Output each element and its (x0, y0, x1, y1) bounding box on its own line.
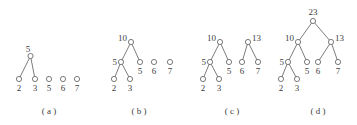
c-edge-13-6 (242, 42, 248, 62)
b-edge-10-l5 (131, 42, 140, 62)
panel-d: 231013556723( d ) (278, 7, 344, 116)
b-leaf-6[interactable] (151, 59, 156, 64)
panel-c-caption: ( c ) (225, 106, 240, 116)
a-leaf-2[interactable] (16, 76, 21, 81)
d-edge-10-l5 (298, 42, 307, 62)
a-leaf-2-label: 2 (17, 83, 22, 93)
b-leaf-6-label: 6 (152, 66, 157, 76)
c-leaf-6-label: 6 (240, 66, 245, 76)
d-leaf-5-label: 5 (305, 66, 310, 76)
c-internal-10-label: 10 (207, 33, 217, 43)
c-leaf-5-label: 5 (227, 66, 232, 76)
d-leaf-6[interactable] (315, 59, 320, 64)
d-edge-23-10 (298, 21, 313, 42)
c-leaf-5[interactable] (226, 59, 231, 64)
b-leaf-3-label: 3 (128, 83, 133, 93)
b-leaf-2[interactable] (111, 76, 116, 81)
c-edge-10-l5 (220, 42, 229, 62)
a-leaf-7-label: 7 (75, 83, 80, 93)
d-internal-5[interactable] (285, 59, 290, 64)
b-internal-5-label: 5 (113, 57, 118, 67)
b-leaf-2-label: 2 (112, 83, 117, 93)
c-leaf-2-label: 2 (201, 83, 206, 93)
d-edge-13-6 (318, 42, 331, 62)
d-leaf-5[interactable] (304, 59, 309, 64)
tree-diagram-canvas: 523567( a )10556723( b )1013556723( c )2… (0, 0, 357, 125)
c-internal-10[interactable] (217, 39, 222, 44)
d-leaf-6-label: 6 (316, 66, 321, 76)
panel-a-caption: ( a ) (42, 106, 57, 116)
d-leaf-3[interactable] (294, 76, 299, 81)
d-root-23-label: 23 (309, 7, 319, 17)
a-leaf-5-label: 5 (47, 83, 52, 93)
d-leaf-7[interactable] (335, 59, 340, 64)
c-internal-5-label: 5 (202, 57, 207, 67)
a-edge-5-3 (31, 56, 36, 79)
d-edge-10-5 (288, 42, 298, 62)
c-internal-13-label: 13 (252, 33, 262, 43)
b-leaf-7-label: 7 (168, 66, 173, 76)
d-edge-23-13 (313, 21, 331, 42)
c-leaf-3[interactable] (216, 76, 221, 81)
d-internal-10[interactable] (295, 39, 300, 44)
c-leaf-6[interactable] (239, 59, 244, 64)
huffman-tree-figure: 523567( a )10556723( b )1013556723( c )2… (0, 0, 357, 125)
a-edge-5-2 (19, 56, 31, 79)
b-leaf-3[interactable] (127, 76, 132, 81)
a-leaf-6[interactable] (60, 76, 65, 81)
b-internal-10-label: 10 (118, 33, 128, 43)
a-leaf-5[interactable] (46, 76, 51, 81)
a-leaf-6-label: 6 (61, 83, 66, 93)
d-leaf-2[interactable] (278, 76, 283, 81)
b-internal-5[interactable] (118, 59, 123, 64)
b-leaf-7[interactable] (167, 59, 172, 64)
d-leaf-3-label: 3 (295, 83, 300, 93)
c-internal-5[interactable] (207, 59, 212, 64)
a-leaf-3[interactable] (32, 76, 37, 81)
c-internal-13[interactable] (245, 39, 250, 44)
c-edge-13-7 (248, 42, 258, 62)
b-leaf-5[interactable] (137, 59, 142, 64)
panel-d-caption: ( d ) (311, 106, 326, 116)
b-internal-10[interactable] (128, 39, 133, 44)
c-leaf-3-label: 3 (217, 83, 222, 93)
d-edge-13-7 (331, 42, 338, 62)
d-internal-13[interactable] (328, 39, 333, 44)
d-internal-13-label: 13 (335, 33, 345, 43)
panel-b: 10556723( b ) (111, 33, 172, 116)
a-leaf-3-label: 3 (33, 83, 38, 93)
c-leaf-7-label: 7 (256, 66, 261, 76)
d-leaf-7-label: 7 (336, 66, 341, 76)
c-leaf-2[interactable] (200, 76, 205, 81)
panel-a: 523567( a ) (16, 44, 79, 116)
c-leaf-7[interactable] (255, 59, 260, 64)
a-internal-5-label: 5 (26, 44, 31, 54)
a-leaf-7[interactable] (74, 76, 79, 81)
panels-group: 523567( a )10556723( b )1013556723( c )2… (16, 7, 344, 116)
d-leaf-2-label: 2 (279, 83, 284, 93)
panel-c: 1013556723( c ) (200, 33, 261, 116)
panel-b-caption: ( b ) (132, 106, 147, 116)
b-leaf-5-label: 5 (138, 66, 143, 76)
d-internal-5-label: 5 (280, 57, 285, 67)
a-internal-5[interactable] (28, 53, 33, 58)
d-internal-10-label: 10 (285, 33, 295, 43)
d-root-23[interactable] (310, 18, 315, 23)
c-edge-10-5 (210, 42, 220, 62)
b-edge-10-5 (121, 42, 131, 62)
